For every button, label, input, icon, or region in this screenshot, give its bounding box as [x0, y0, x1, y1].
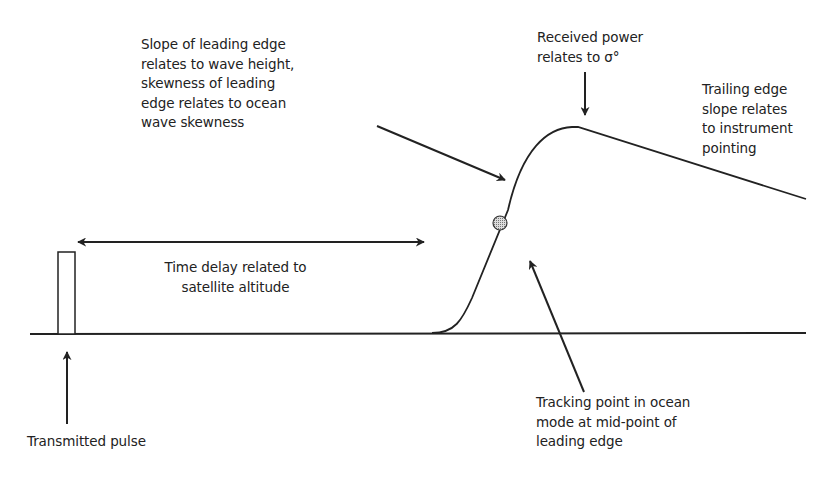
leading-edge-label: Slope of leading edge relates to wave he…: [141, 35, 294, 133]
label-line: relates to σ°: [537, 48, 643, 68]
label-line: Received power: [537, 28, 643, 48]
time-delay-label: Time delay related to satellite altitude: [148, 258, 323, 297]
waveform-diagram: [0, 0, 829, 483]
label-line: to instrument: [702, 119, 793, 139]
label-line: slope relates: [702, 100, 793, 120]
label-line: leading edge: [536, 432, 690, 452]
label-line: pointing: [702, 139, 793, 159]
time-axis-baseline: [30, 333, 806, 334]
label-line: satellite altitude: [148, 278, 323, 298]
label-line: relates to wave height,: [141, 55, 294, 75]
transmitted-pulse-label: Transmitted pulse: [27, 432, 146, 452]
leading-edge-arrow: [377, 126, 505, 180]
label-line: Tracking point in ocean: [536, 393, 690, 413]
tracking-point-marker: [493, 216, 507, 230]
label-line: skewness of leading: [141, 74, 294, 94]
label-line: mode at mid-point of: [536, 413, 690, 433]
transmitted-pulse: [58, 252, 75, 334]
label-line: Trailing edge: [702, 80, 793, 100]
label-line: edge relates to ocean: [141, 94, 294, 114]
label-line: Transmitted pulse: [27, 432, 146, 452]
tracking-point-label: Tracking point in ocean mode at mid-poin…: [536, 393, 690, 452]
label-line: Time delay related to: [148, 258, 323, 278]
received-power-label: Received power relates to σ°: [537, 28, 643, 67]
label-line: Slope of leading edge: [141, 35, 294, 55]
trailing-edge-label: Trailing edge slope relates to instrumen…: [702, 80, 793, 158]
label-line: wave skewness: [141, 113, 294, 133]
tracking-point-arrow: [530, 261, 584, 392]
